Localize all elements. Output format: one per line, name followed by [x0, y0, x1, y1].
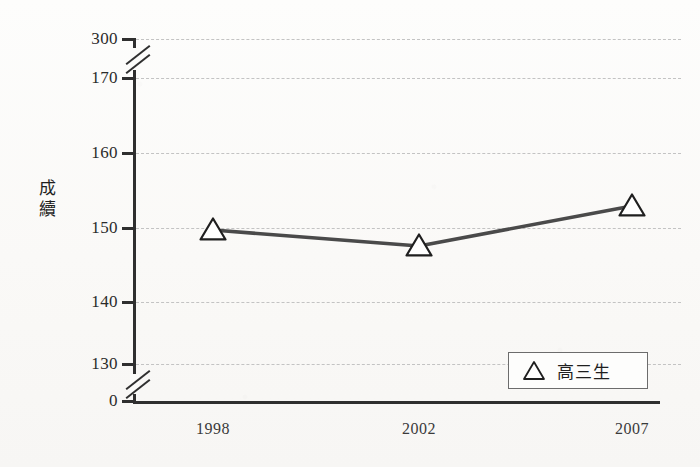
series-layer: [0, 0, 700, 467]
legend-box[interactable]: 高三生: [508, 352, 648, 389]
series-markers: [201, 194, 645, 255]
triangle-up-icon: [522, 360, 546, 381]
chart-figure: 300 170 160 150 140 130 0 成 續 1998 2002 …: [0, 0, 700, 467]
data-point-marker-2007: [620, 194, 645, 215]
legend-label: 高三生: [557, 358, 611, 383]
